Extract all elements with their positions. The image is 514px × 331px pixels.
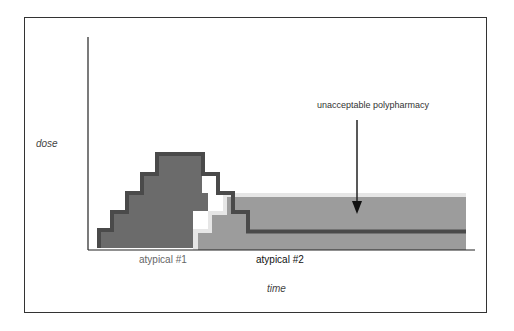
- atypical1-label: atypical #1: [139, 254, 187, 265]
- y-axis-label: dose: [36, 138, 58, 149]
- dose-time-chart: [0, 0, 514, 331]
- atypical2-area: [198, 197, 466, 250]
- polypharmacy-annotation: unacceptable polypharmacy: [317, 100, 429, 110]
- atypical2-label: atypical #2: [256, 254, 304, 265]
- x-axis-label: time: [267, 283, 286, 294]
